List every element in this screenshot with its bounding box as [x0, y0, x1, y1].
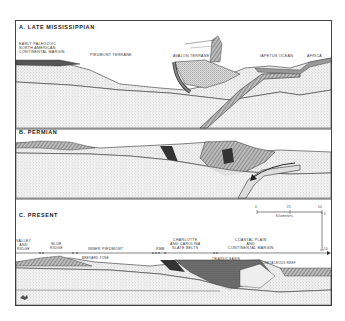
scale-vertical-0: 0: [324, 212, 326, 216]
label-valley-ridge: VALLEY AND RIDGE: [16, 239, 31, 252]
scale-vertical-50: 50: [324, 247, 328, 251]
panel-b-section: [16, 141, 331, 198]
label-iapetus-ocean: IAPETUS OCEAN: [260, 54, 293, 58]
label-kmb: KMB: [156, 247, 165, 251]
label-blue-ridge: BLUE RIDGE: [50, 242, 63, 250]
panel-a-title: A. LATE MISSISSIPPIAN: [19, 24, 95, 30]
scale-tick-25: 25: [287, 205, 291, 209]
label-cretaceous-reef: CRETACEOUS REEF: [262, 261, 296, 265]
label-line: RIDGE: [16, 247, 31, 251]
label-margin: EARLY PALEOZOIC NORTH AMERICAN CONTINENT…: [19, 42, 65, 55]
label-piedmont-terrane: PIEDMONT TERRANE: [90, 53, 132, 57]
label-margin-line: CONTINENTAL MARGIN: [19, 50, 65, 54]
label-triassic-basin: TRIASSIC BASIN: [212, 257, 240, 261]
scale-tick-50: 50: [318, 205, 322, 209]
label-brevard-zone: BREVARD ZONE: [82, 256, 109, 260]
panel-b-title: B. PERMIAN: [19, 129, 57, 135]
label-line: RIDGE: [50, 246, 63, 250]
panel-c-section: [16, 210, 331, 305]
scale-tick-0: 0: [255, 205, 257, 209]
label-line: CONTINENTAL MARGIN: [228, 246, 274, 250]
label-africa: AFRICA: [307, 54, 322, 58]
label-charlotte-carolina: CHARLOTTE AND CAROLINA SLATE BELTS: [170, 238, 201, 251]
scale-unit: Kilometers: [276, 214, 293, 218]
label-line: SLATE BELTS: [170, 246, 201, 250]
label-avalon-terrane: AVALON TERRANE: [173, 54, 209, 58]
panel-c-title: C. PRESENT: [19, 212, 58, 218]
label-inner-piedmont: INNER PIEDMONT: [88, 247, 123, 251]
label-coastal-plain: COASTAL PLAIN AND CONTINENTAL MARGIN: [228, 238, 274, 251]
